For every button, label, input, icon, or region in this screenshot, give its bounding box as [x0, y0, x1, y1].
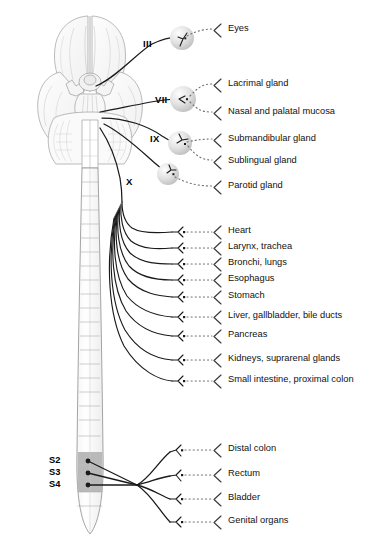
target-label-rectum: Rectum: [228, 469, 260, 478]
cranial-nerve-numeral-ix: IX: [150, 133, 160, 144]
ciliary-ganglion: [170, 26, 194, 50]
pterygopalatine-ganglion: [170, 86, 196, 112]
otic-ganglion: [157, 163, 179, 185]
brain-illustration: [38, 16, 143, 168]
target-label-genital-organs: Genital organs: [228, 516, 288, 525]
target-label-distal-colon: Distal colon: [228, 444, 276, 453]
target-label-lacrimal-gland: Lacrimal gland: [228, 79, 288, 88]
target-label-submandibular-gland: Submandibular gland: [228, 134, 316, 143]
spinal-segment-label-s4: S4: [49, 479, 60, 489]
diagram-canvas: III VII IX X S2 S3 S4 Eyes Lacrimal glan…: [0, 0, 390, 548]
target-label-parotid-gland: Parotid gland: [228, 181, 283, 190]
target-label-kidneys-suprarenal-glands: Kidneys, suprarenal glands: [228, 354, 340, 363]
vagus-branches: [109, 202, 172, 381]
target-label-esophagus: Esophagus: [228, 274, 275, 283]
target-label-liver-gallbladder-bile-ducts: Liver, gallbladder, bile ducts: [228, 311, 342, 320]
target-label-bladder: Bladder: [228, 493, 260, 502]
spinal-cord: [77, 168, 103, 534]
target-label-bronchi-lungs: Bronchi, lungs: [228, 258, 287, 267]
cranial-nerve-numeral-vii: VII: [155, 94, 168, 105]
label-brackets: [214, 24, 221, 529]
target-label-heart: Heart: [228, 226, 251, 235]
target-label-stomach: Stomach: [228, 291, 265, 300]
target-label-sublingual-gland: Sublingual gland: [228, 156, 297, 165]
vagal-terminal-markers: [172, 227, 212, 386]
cranial-nerve-numeral-x: X: [126, 176, 133, 187]
target-label-larynx-trachea: Larynx, trachea: [228, 242, 292, 251]
target-label-eyes: Eyes: [228, 24, 249, 33]
spinal-segment-label-s2: S2: [49, 455, 60, 465]
cranial-nerve-numeral-iii: III: [143, 38, 152, 49]
cranial-ganglia: [157, 26, 196, 185]
target-label-pancreas: Pancreas: [228, 330, 267, 339]
anatomy-illustration: [0, 0, 390, 548]
submandibular-ganglion: [168, 131, 192, 155]
target-label-small-intestine-proximal-colon: Small intestine, proximal colon: [228, 375, 354, 384]
target-label-nasal-and-palatal-mucosa: Nasal and palatal mucosa: [228, 107, 335, 116]
spinal-segment-label-s3: S3: [49, 467, 60, 477]
sacral-terminal-markers: [170, 445, 212, 527]
